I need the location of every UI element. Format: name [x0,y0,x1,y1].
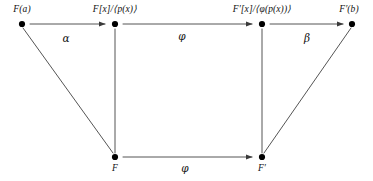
node-dot-top-right [349,21,355,27]
edge-label-beta: β [304,33,310,44]
node-label-top-right: F′(b) [339,5,358,15]
right-diagonal-edge [264,28,351,153]
edge-label-phi-top: φ [178,31,185,42]
commutative-diagram: F(a) F[x]/⟨p(x)⟩ F′[x]/⟨φ(p(x))⟩ F′(b) F… [0,0,373,181]
node-dot-bottom-right [259,154,265,160]
node-dot-top-mid-right [259,21,265,27]
edge-label-alpha: α [62,33,69,44]
left-diagonal-edge [23,28,113,153]
node-dot-bottom-left [112,154,118,160]
node-dot-top-mid-left [112,21,118,27]
node-label-bottom-right: F′ [258,164,266,174]
node-label-top-mid-right: F′[x]/⟨φ(p(x))⟩ [233,5,292,15]
edge-label-phi-bottom: φ [181,163,188,174]
diagram-canvas [0,0,373,181]
node-label-top-mid-left: F[x]/⟨p(x)⟩ [93,5,137,15]
node-label-top-left: F(a) [13,5,30,15]
node-dot-top-left [19,21,25,27]
node-label-bottom-left: F [112,164,118,174]
